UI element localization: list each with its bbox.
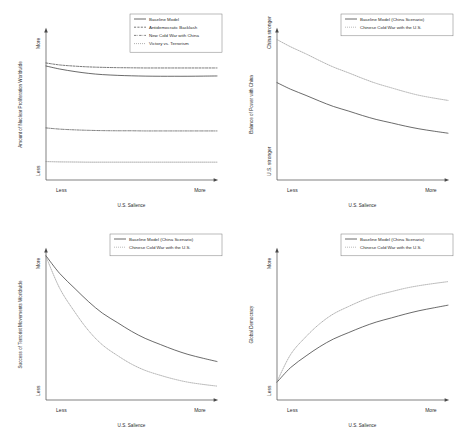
series-line-0 — [277, 305, 448, 382]
chart-svg: MoreLessGlobal DemocracyLessMoreU.S. Sal… — [231, 220, 461, 440]
x-tick-label-more: More — [425, 187, 437, 193]
chart-svg: China strongerU.S. strongerBalance of Po… — [231, 0, 461, 220]
series-line-1 — [46, 63, 217, 68]
legend-label-1: Chinese Cold War with the U.S. — [129, 245, 191, 250]
x-axis-arrow — [445, 178, 450, 182]
x-tick-label-more: More — [194, 407, 206, 413]
chart-svg: MoreLessSuccess of Terrorist Movements W… — [0, 220, 230, 440]
series-line-2 — [46, 128, 217, 131]
chart-panel-terrorist-success: MoreLessSuccess of Terrorist Movements W… — [0, 220, 230, 440]
chart-panel-balance-of-power: China strongerU.S. strongerBalance of Po… — [231, 0, 461, 220]
legend: Baseline Model (China Scenario)Chinese C… — [341, 234, 453, 256]
x-axis-title: U.S. Salience — [349, 423, 377, 428]
legend: Baseline Model (China Scenario)Chinese C… — [341, 14, 453, 36]
legend-label-0: Baseline Model — [149, 17, 179, 22]
x-tick-label-less: Less — [287, 407, 298, 413]
chart-svg: MoreLessAmount of Nuclear Proliferation … — [0, 0, 230, 220]
series-line-3 — [46, 162, 217, 163]
x-tick-label-less: Less — [56, 407, 67, 413]
y-tick-label-top: More — [266, 257, 272, 269]
y-tick-label-top: More — [35, 257, 41, 269]
legend-label-3: Victory vs. Terrorism — [149, 41, 189, 46]
y-axis-arrow — [275, 248, 279, 253]
y-tick-label-top: More — [35, 37, 41, 49]
legend-label-1: Chinese Cold War with the U.S. — [360, 25, 422, 30]
chart-panel-global-democracy: MoreLessGlobal DemocracyLessMoreU.S. Sal… — [231, 220, 461, 440]
y-axis-title: Success of Terrorist Movements Worldwide — [18, 280, 23, 368]
legend-label-0: Baseline Model (China Scenario) — [360, 237, 425, 242]
y-axis-arrow — [44, 28, 48, 33]
y-tick-label-top: China stronger — [266, 16, 272, 49]
y-tick-label-bottom: Less — [35, 165, 41, 176]
series-line-0 — [46, 256, 217, 362]
y-tick-label-bottom: Less — [266, 385, 272, 396]
y-axis-title: Global Democracy — [249, 305, 254, 343]
x-axis-arrow — [445, 398, 450, 402]
x-tick-label-more: More — [425, 407, 437, 413]
legend: Baseline Model (China Scenario)Chinese C… — [110, 234, 222, 256]
series-line-0 — [277, 83, 448, 134]
chart-panel-nuclear-proliferation: MoreLessAmount of Nuclear Proliferation … — [0, 0, 230, 220]
legend: Baseline ModelAntidemocratic BacklashNew… — [130, 14, 222, 52]
y-axis-title: Balance of Power with China — [249, 75, 254, 134]
series-line-1 — [277, 282, 448, 382]
y-axis-arrow — [44, 248, 48, 253]
y-tick-label-bottom: Less — [35, 385, 41, 396]
figure-grid: MoreLessAmount of Nuclear Proliferation … — [0, 0, 461, 440]
x-axis-title: U.S. Salience — [349, 203, 377, 208]
x-axis-arrow — [214, 398, 219, 402]
legend-label-2: New Cold War with China — [149, 33, 199, 38]
series-line-1 — [46, 257, 217, 387]
legend-label-1: Chinese Cold War with the U.S. — [360, 245, 422, 250]
y-axis-title: Amount of Nuclear Proliferation Worldwid… — [18, 61, 23, 148]
x-tick-label-more: More — [194, 187, 206, 193]
legend-label-0: Baseline Model (China Scenario) — [129, 237, 194, 242]
y-tick-label-bottom: U.S. stronger — [266, 146, 272, 176]
series-line-1 — [277, 40, 448, 101]
legend-label-0: Baseline Model (China Scenario) — [360, 17, 425, 22]
x-tick-label-less: Less — [56, 187, 67, 193]
x-axis-title: U.S. Salience — [118, 423, 146, 428]
y-axis-arrow — [275, 28, 279, 33]
x-axis-title: U.S. Salience — [118, 203, 146, 208]
legend-label-1: Antidemocratic Backlash — [149, 25, 198, 30]
x-tick-label-less: Less — [287, 187, 298, 193]
x-axis-arrow — [214, 178, 219, 182]
